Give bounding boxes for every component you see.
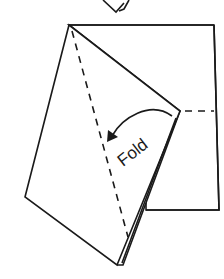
previous-step-fragment bbox=[103, 0, 129, 12]
fold-diagram: Fold bbox=[0, 0, 224, 279]
